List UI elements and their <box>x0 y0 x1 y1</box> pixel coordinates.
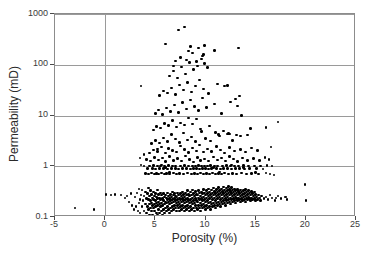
scatter-point <box>187 50 189 52</box>
scatter-point <box>181 167 183 169</box>
scatter-point <box>215 145 217 147</box>
scatter-point <box>183 164 185 166</box>
scatter-point <box>152 129 154 131</box>
scatter-point <box>205 106 207 108</box>
scatter-point <box>182 173 184 175</box>
scatter-point <box>143 165 145 167</box>
scatter-point <box>219 205 221 207</box>
scatter-point <box>145 158 147 160</box>
scatter-point <box>305 199 307 201</box>
scatter-point <box>162 90 164 92</box>
scatter-point <box>197 109 199 111</box>
scatter-point <box>187 151 189 153</box>
scatter-point <box>161 113 163 115</box>
x-axis-tick-label: 10 <box>185 219 225 230</box>
scatter-point <box>140 85 142 87</box>
scatter-point <box>155 125 157 127</box>
scatter-point <box>185 167 187 169</box>
scatter-point <box>188 158 190 160</box>
scatter-point <box>152 149 154 151</box>
scatter-point <box>158 167 160 169</box>
scatter-point <box>159 127 161 129</box>
scatter-point <box>114 193 116 195</box>
scatter-point <box>202 88 204 90</box>
scatter-point <box>190 91 192 93</box>
scatter-point <box>178 172 180 174</box>
scatter-point <box>156 150 158 152</box>
scatter-point <box>267 198 269 200</box>
scatter-point <box>258 159 260 161</box>
scatter-point <box>216 159 218 161</box>
scatter-point <box>262 168 264 170</box>
scatter-point <box>149 160 151 162</box>
scatter-point <box>195 150 197 152</box>
scatter-point <box>265 172 267 174</box>
scatter-point <box>126 195 128 197</box>
scatter-point <box>231 172 233 174</box>
scatter-point <box>136 192 138 194</box>
scatter-point <box>218 171 220 173</box>
scatter-point <box>171 119 173 121</box>
scatter-point <box>231 139 233 141</box>
scatter-point <box>120 194 122 196</box>
y-axis-tick <box>50 115 54 116</box>
scatter-point <box>187 117 189 119</box>
y-axis-tick <box>50 216 54 217</box>
scatter-point <box>222 130 224 132</box>
scatter-point <box>165 107 167 109</box>
scatter-point <box>172 70 174 72</box>
scatter-point <box>216 83 218 85</box>
scatter-point <box>105 193 107 195</box>
x-axis-tick-label: -5 <box>34 219 74 230</box>
scatter-point <box>244 151 246 153</box>
scatter-point <box>160 146 162 148</box>
scatter-point <box>153 156 155 158</box>
scatter-point <box>175 126 177 128</box>
scatter-point <box>216 165 218 167</box>
scatter-point <box>277 121 279 123</box>
scatter-point <box>187 165 189 167</box>
scatter-point <box>154 112 156 114</box>
scatter-point <box>188 61 190 63</box>
scatter-point <box>256 149 258 151</box>
scatter-point <box>225 164 227 166</box>
scatter-point <box>166 92 168 94</box>
scatter-point <box>208 125 210 127</box>
scatter-point <box>176 77 178 79</box>
scatter-point <box>212 166 214 168</box>
scatter-point <box>152 164 154 166</box>
scatter-point <box>224 204 226 206</box>
scatter-point <box>185 108 187 110</box>
scatter-point <box>286 198 288 200</box>
scatter-point <box>179 122 181 124</box>
scatter-point <box>266 164 268 166</box>
scatter-point <box>176 157 178 159</box>
scatter-point <box>233 165 235 167</box>
scatter-point <box>228 146 230 148</box>
scatter-point <box>143 153 145 155</box>
scatter-point <box>196 65 198 67</box>
scatter-point <box>253 165 255 167</box>
scatter-point <box>168 155 170 157</box>
scatter-point <box>233 150 235 152</box>
scatter-point <box>285 196 287 198</box>
scatter-point <box>195 118 197 120</box>
scatter-point <box>203 158 205 160</box>
scatter-point <box>238 167 240 169</box>
scatter-point <box>191 52 193 54</box>
x-axis-label: Porosity (%) <box>54 231 355 245</box>
scatter-point <box>244 201 246 203</box>
scatter-point <box>226 167 228 169</box>
scatter-point <box>199 210 201 212</box>
scatter-point <box>202 53 204 55</box>
scatter-point <box>206 148 208 150</box>
scatter-point <box>168 212 170 214</box>
scatter-point <box>228 133 230 135</box>
scatter-point <box>167 147 169 149</box>
scatter-point <box>194 140 196 142</box>
scatter-point <box>172 159 174 161</box>
scatter-point <box>199 159 201 161</box>
scatter-point <box>142 199 144 201</box>
scatter-point <box>150 142 152 144</box>
scatter-point <box>93 208 95 210</box>
